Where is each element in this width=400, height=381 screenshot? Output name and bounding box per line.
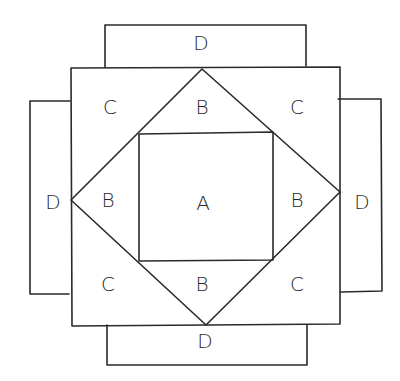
label-corner-top-right: C [290, 95, 304, 119]
label-diamond-bottom: B [195, 272, 208, 296]
label-corner-bottom-right: C [290, 272, 304, 296]
label-diamond-top: B [195, 95, 208, 119]
label-border-top: D [193, 31, 208, 55]
label-corner-top-left: C [103, 95, 117, 119]
label-center: A [196, 191, 210, 215]
quilt-diagram: D D D D C C C C B B B B A [0, 0, 400, 381]
label-corner-bottom-left: C [101, 272, 115, 296]
label-diamond-right: B [290, 188, 303, 212]
label-border-left: D [45, 190, 60, 214]
label-diamond-left: B [101, 188, 114, 212]
label-border-bottom: D [197, 329, 212, 353]
label-border-right: D [354, 190, 369, 214]
